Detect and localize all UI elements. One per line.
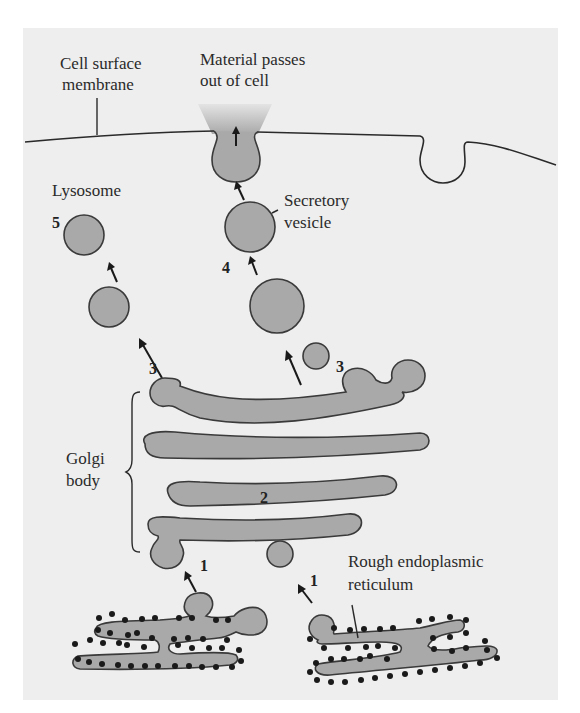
- step-3-right-label: 3: [336, 358, 344, 375]
- golgi-body: [144, 360, 429, 569]
- large-transport-vesicle: [250, 279, 304, 333]
- secretory-vesicle: [225, 202, 275, 252]
- step-1-left-label: 1: [200, 557, 208, 574]
- golgi-label-line1: Golgi: [66, 449, 105, 468]
- membrane-label-line2: membrane: [62, 75, 134, 94]
- step-3-left-label: 3: [149, 360, 157, 377]
- secretory-vesicle-label-line1: Secretory: [284, 191, 350, 210]
- step-5-label: 5: [52, 214, 60, 231]
- membrane-label-line1: Cell surface: [60, 54, 142, 73]
- golgi-incoming-vesicle: [267, 541, 293, 567]
- step-2-label: 2: [260, 489, 268, 506]
- rer-label-line1: Rough endoplasmic: [348, 552, 484, 571]
- rough-er-left: [73, 593, 267, 669]
- small-transport-vesicle: [303, 343, 329, 369]
- golgi-label-line2: body: [66, 471, 101, 490]
- rer-label-line2: reticulum: [348, 575, 413, 594]
- secretory-vesicle-label-line2: vesicle: [284, 213, 331, 232]
- secretory-pathway-diagram: Cell surface membrane Material passes ou…: [0, 0, 580, 713]
- golgi-brace: [126, 392, 140, 552]
- lysosome-label: Lysosome: [52, 181, 121, 200]
- exit-label-line2: out of cell: [200, 71, 269, 90]
- rough-er-right: [309, 615, 497, 675]
- step-4-label: 4: [222, 259, 230, 276]
- exit-label-line1: Material passes: [200, 50, 305, 69]
- lysosome-vesicle: [64, 215, 104, 255]
- cell-surface-membrane: [25, 131, 556, 183]
- step-1-right-label: 1: [310, 572, 318, 589]
- lysosome-precursor-vesicle: [89, 287, 129, 327]
